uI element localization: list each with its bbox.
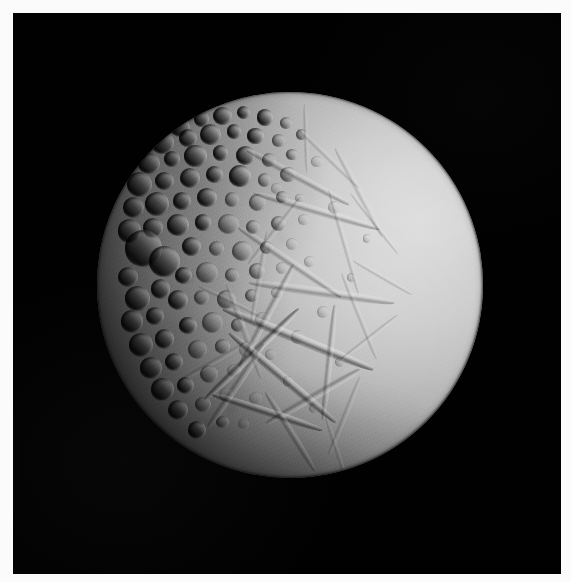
- crater: [196, 262, 218, 284]
- crater: [283, 376, 293, 386]
- crater: [247, 128, 264, 145]
- groove: [196, 283, 261, 318]
- crater: [151, 279, 170, 298]
- groove: [236, 263, 297, 369]
- groove: [201, 306, 301, 403]
- crater: [229, 165, 251, 187]
- crater: [271, 287, 282, 298]
- crater: [121, 310, 143, 332]
- crater: [125, 230, 162, 267]
- groove: [210, 390, 323, 434]
- crater: [309, 404, 318, 413]
- groove: [237, 224, 344, 299]
- moon-enceladus: [97, 92, 483, 478]
- crater: [219, 388, 233, 402]
- crater: [272, 134, 284, 146]
- crater-field: [97, 92, 483, 478]
- crater: [217, 290, 236, 309]
- crater: [168, 290, 188, 310]
- crater: [255, 312, 270, 327]
- crater: [286, 149, 298, 161]
- crater: [138, 153, 160, 175]
- crater: [200, 365, 219, 384]
- crater: [164, 151, 180, 167]
- crater: [216, 416, 228, 428]
- crater: [296, 129, 307, 140]
- crater: [155, 329, 174, 348]
- groove: [319, 304, 338, 420]
- crater: [237, 106, 250, 119]
- crater: [218, 214, 239, 235]
- crater: [257, 109, 273, 125]
- crater: [127, 172, 152, 197]
- crater: [236, 146, 255, 165]
- crater: [215, 339, 230, 354]
- groove: [248, 278, 395, 308]
- crater: [225, 268, 240, 283]
- crater: [125, 286, 150, 311]
- limb-edge: [97, 92, 483, 478]
- crater: [280, 167, 295, 182]
- crater: [168, 400, 188, 420]
- crater: [195, 397, 210, 412]
- groove: [351, 258, 414, 297]
- crater: [182, 237, 201, 256]
- crater: [258, 173, 271, 186]
- groove: [264, 367, 361, 428]
- crater: [213, 145, 228, 160]
- terrain-mottling-layer: [97, 92, 483, 478]
- crater: [155, 172, 174, 191]
- crater: [197, 188, 216, 207]
- crater: [231, 318, 245, 332]
- crater: [225, 192, 240, 207]
- crater: [286, 238, 298, 250]
- groove: [253, 189, 381, 233]
- crater: [202, 312, 223, 333]
- crater: [177, 377, 194, 394]
- groove: [325, 376, 363, 457]
- crater: [194, 290, 209, 305]
- crater: [195, 214, 211, 230]
- crater: [175, 267, 192, 284]
- crater: [179, 317, 197, 335]
- groove: [335, 313, 399, 365]
- terminator-shadow: [97, 92, 483, 478]
- groove: [339, 272, 379, 360]
- groove: [226, 329, 338, 425]
- crater: [123, 197, 144, 218]
- crater: [165, 353, 184, 372]
- groove: [263, 391, 318, 473]
- crater: [188, 340, 207, 359]
- crater: [151, 378, 174, 401]
- crater: [246, 220, 260, 234]
- moon-disk: [97, 92, 483, 478]
- crater: [363, 234, 371, 242]
- crater: [173, 192, 191, 210]
- groove: [325, 417, 348, 477]
- groove: [245, 146, 351, 207]
- crater: [179, 129, 197, 147]
- crater: [227, 124, 242, 139]
- crater: [262, 153, 276, 167]
- crater: [184, 145, 206, 167]
- crater: [249, 194, 266, 211]
- crater: [304, 256, 315, 267]
- crater: [265, 349, 277, 361]
- groove: [326, 190, 362, 296]
- crater: [118, 267, 138, 287]
- crater: [245, 289, 258, 302]
- groove: [246, 196, 303, 267]
- crater: [129, 333, 153, 357]
- crater: [328, 201, 341, 214]
- crater: [276, 262, 288, 274]
- crater: [232, 241, 252, 261]
- albedo-terrain-layer: [97, 92, 483, 478]
- crater: [188, 421, 206, 439]
- crater: [227, 364, 240, 377]
- crater: [145, 192, 169, 216]
- groove: [349, 191, 401, 255]
- crater: [143, 218, 162, 237]
- crater: [271, 183, 281, 193]
- crater: [146, 307, 164, 325]
- crater: [170, 117, 190, 137]
